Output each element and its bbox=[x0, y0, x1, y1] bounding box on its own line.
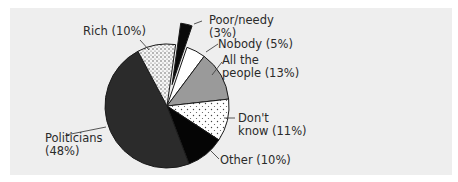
label-rich: Rich (10%) bbox=[83, 25, 146, 38]
leader-poor-needy bbox=[194, 21, 202, 24]
label-nobody: Nobody (5%) bbox=[218, 38, 293, 51]
label-all-the-people: All the people (13%) bbox=[222, 54, 299, 80]
label-other: Other (10%) bbox=[220, 154, 291, 167]
label-nobody-line1: Nobody (5%) bbox=[218, 38, 293, 51]
label-dont-know: Don't know (11%) bbox=[238, 112, 307, 138]
label-politicians-line2: (48%) bbox=[45, 145, 103, 158]
leader-other bbox=[210, 150, 219, 159]
label-other-line1: Other (10%) bbox=[220, 154, 291, 167]
label-politicians: Politicians (48%) bbox=[45, 132, 103, 158]
label-all-the-people-line2: people (13%) bbox=[222, 67, 299, 80]
pie-slices bbox=[105, 23, 229, 168]
label-rich-line1: Rich (10%) bbox=[83, 25, 146, 38]
label-dont-know-line2: know (11%) bbox=[238, 125, 307, 138]
leader-nobody bbox=[206, 44, 218, 52]
